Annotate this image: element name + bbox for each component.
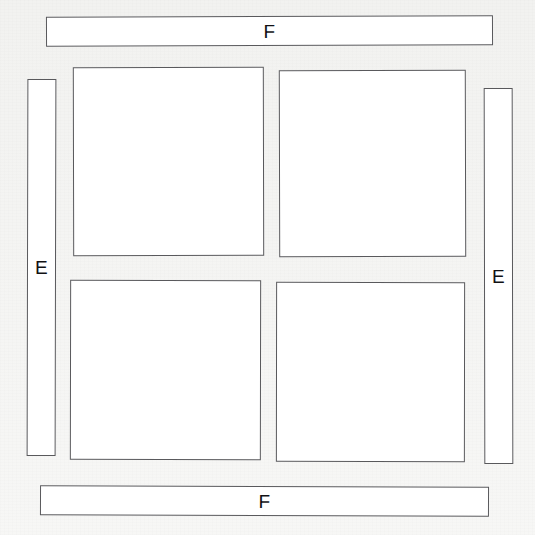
panel-bottom-right[interactable] — [276, 282, 465, 462]
panel-bottom-left[interactable] — [70, 280, 261, 460]
strip-bottom-f[interactable]: F — [40, 485, 489, 517]
strip-top-f-label: F — [264, 21, 276, 40]
strip-right-e-label: E — [492, 266, 505, 285]
strip-left-e-label: E — [35, 258, 48, 277]
strip-bottom-f-label: F — [259, 491, 271, 510]
strip-right-e[interactable]: E — [484, 88, 514, 464]
diagram-canvas: F E E F — [0, 0, 535, 535]
panel-top-right[interactable] — [279, 70, 466, 257]
strip-top-f[interactable]: F — [46, 15, 493, 47]
panel-top-left[interactable] — [73, 67, 264, 256]
strip-left-e[interactable]: E — [27, 79, 57, 456]
